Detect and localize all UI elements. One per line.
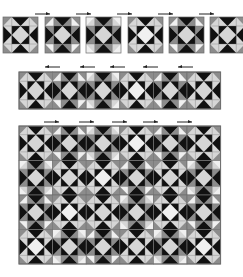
assembled-quilt-block: [187, 230, 221, 265]
assembled-quilt-block: [187, 161, 221, 196]
arrow-left-icon: [80, 65, 95, 68]
arrow-left-icon: [110, 65, 125, 68]
arrow-right-icon: [112, 120, 127, 123]
assembled-quilt-block: [187, 126, 221, 161]
single-block-3: [86, 17, 121, 53]
quilt-canvas: [0, 0, 243, 277]
arrow-left-icon: [178, 65, 193, 68]
joined-strip-block: [86, 72, 120, 109]
joined-strip-block: [187, 72, 221, 109]
arrow-right-icon: [44, 120, 59, 123]
assembled-quilt-block: [86, 230, 120, 265]
assembled-quilt-block: [153, 126, 187, 161]
arrow-right-icon: [158, 12, 173, 15]
arrow-right-icon: [199, 12, 214, 15]
assembled-quilt-block: [153, 161, 187, 196]
assembled-quilt-block: [153, 195, 187, 230]
single-block-4: [128, 17, 163, 53]
arrow-right-icon: [117, 12, 132, 15]
assembled-quilt-block: [53, 161, 87, 196]
single-block-6: [210, 17, 243, 53]
assembled-quilt-block: [19, 126, 53, 161]
arrow-right-icon: [35, 12, 50, 15]
assembled-quilt-block: [120, 126, 154, 161]
assembled-quilt-block: [19, 161, 53, 196]
assembled-quilt-block: [120, 230, 154, 265]
single-block-5: [169, 17, 204, 53]
arrow-right-icon: [76, 12, 91, 15]
assembled-quilt-block: [19, 230, 53, 265]
arrow-right-icon: [143, 120, 158, 123]
assembled-quilt-block: [120, 195, 154, 230]
assembled-quilt-block: [53, 126, 87, 161]
joined-strip-block: [120, 72, 154, 109]
quilt-diagram: [0, 0, 243, 277]
arrow-left-icon: [143, 65, 158, 68]
assembled-quilt-block: [187, 195, 221, 230]
single-block-2: [45, 17, 80, 53]
arrow-right-icon: [177, 120, 192, 123]
assembled-quilt-block: [153, 230, 187, 265]
assembled-quilt-block: [19, 195, 53, 230]
single-block-1: [3, 17, 38, 53]
assembled-quilt-block: [86, 195, 120, 230]
joined-strip-block: [53, 72, 87, 109]
arrow-left-icon: [45, 65, 60, 68]
joined-strip-block: [153, 72, 187, 109]
assembled-quilt-block: [53, 230, 87, 265]
assembled-quilt-block: [53, 195, 87, 230]
joined-strip-block: [19, 72, 53, 109]
assembled-quilt-block: [120, 161, 154, 196]
arrow-right-icon: [79, 120, 94, 123]
assembled-quilt-block: [86, 161, 120, 196]
assembled-quilt-block: [86, 126, 120, 161]
